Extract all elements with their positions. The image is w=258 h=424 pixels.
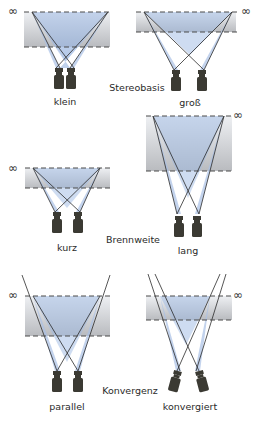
infinity-label: ∞ — [8, 161, 18, 175]
left-camera-icon — [52, 371, 62, 392]
left-camera-icon — [52, 212, 62, 233]
right-camera-icon — [197, 70, 207, 91]
infinity-label: ∞ — [233, 108, 243, 122]
right-camera-icon — [194, 370, 209, 393]
panel-parallel: ∞ parallel — [8, 275, 110, 412]
left-camera-icon — [174, 216, 184, 237]
left-camera-icon — [54, 68, 64, 89]
category-label-brennweite: Brennweite — [106, 234, 160, 245]
panel-label-kurz: kurz — [57, 242, 77, 253]
panel-label-lang: lang — [178, 245, 199, 256]
category-label-konvergenz: Konvergenz — [102, 385, 158, 396]
right-camera-icon — [66, 68, 76, 89]
right-camera-icon — [73, 212, 83, 233]
right-camera-icon — [192, 216, 202, 237]
infinity-label: ∞ — [8, 288, 18, 302]
infinity-label: ∞ — [8, 4, 18, 18]
panel-label-parallel: parallel — [49, 401, 84, 412]
panel-label-klein: klein — [54, 96, 77, 107]
panel-lang: ∞ lang — [146, 108, 243, 256]
left-camera-icon — [171, 70, 181, 91]
stereo-diagram: ∞ klein ∞ groß Stereobasis ∞ — [0, 0, 258, 424]
left-camera-icon — [168, 370, 183, 393]
infinity-label: ∞ — [241, 4, 251, 18]
category-label-stereobasis: Stereobasis — [109, 82, 164, 93]
panel-kurz: ∞ kurz — [8, 161, 110, 253]
panel-label-konvergiert: konvergiert — [163, 401, 218, 412]
panel-konvergiert: ∞ konvergiert — [146, 274, 243, 412]
panel-klein: ∞ klein — [8, 4, 110, 107]
infinity-label: ∞ — [233, 288, 243, 302]
panel-label-gross: groß — [179, 97, 201, 108]
right-camera-icon — [73, 371, 83, 392]
